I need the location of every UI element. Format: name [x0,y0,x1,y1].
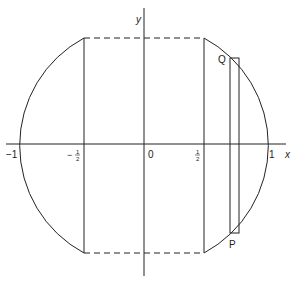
circle-slab-diagram: y x −1 − 1 2 0 1 2 1 Q P [0,0,296,291]
tick-half-den: 2 [196,156,200,162]
left-arc [20,38,84,253]
tick-neg-one: −1 [6,149,18,160]
tick-neg-half-minus: − [67,150,72,160]
strip-rectangle [230,58,239,233]
point-q-label: Q [218,54,226,65]
tick-neg-half-num: 1 [76,149,80,155]
y-axis-label: y [135,14,142,25]
right-arc [204,38,268,253]
tick-one: 1 [269,149,275,160]
tick-neg-half-den: 2 [76,156,80,162]
tick-zero: 0 [148,149,154,160]
point-p-label: P [229,239,236,250]
tick-half-num: 1 [196,149,200,155]
x-axis-label: x [284,149,291,160]
